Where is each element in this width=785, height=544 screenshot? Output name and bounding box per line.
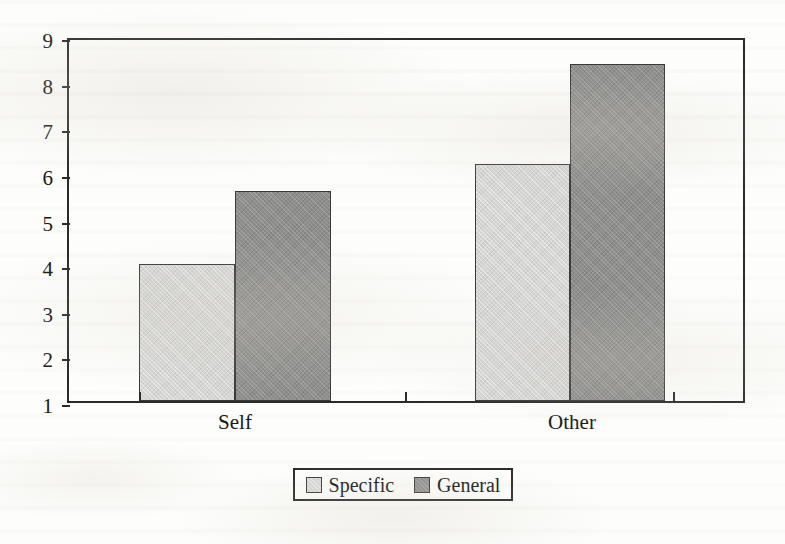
y-axis-label-4: 4 [43, 259, 54, 280]
y-axis-tick-1: 1 [62, 405, 70, 407]
y-axis-tick-8: 8 [62, 86, 70, 88]
y-axis-label-5: 5 [43, 214, 54, 235]
y-axis-tick-3: 3 [62, 314, 70, 316]
legend-swatch-general-icon [414, 477, 430, 493]
legend-label-general: General [437, 475, 500, 495]
y-axis-tick-9: 9 [62, 40, 70, 42]
legend: Specific General [293, 468, 513, 501]
plot-area: 9 8 7 6 5 4 3 2 1 [67, 38, 745, 403]
y-axis-tick-6: 6 [62, 177, 70, 179]
y-axis-label-7: 7 [43, 122, 54, 143]
y-axis-tick-7: 7 [62, 131, 70, 133]
y-axis-label-8: 8 [43, 77, 54, 98]
y-axis-label-2: 2 [43, 350, 54, 371]
x-axis-category-label-other: Other [548, 412, 596, 433]
legend-label-specific: Specific [329, 475, 395, 495]
bar-other-specific [475, 164, 570, 401]
y-axis-tick-5: 5 [62, 223, 70, 225]
legend-swatch-specific-icon [306, 477, 322, 493]
y-axis-tick-4: 4 [62, 268, 70, 270]
y-axis-tick-2: 2 [62, 359, 70, 361]
x-axis-category-label-self: Self [218, 412, 252, 433]
y-axis-label-3: 3 [43, 305, 54, 326]
y-axis-label-6: 6 [43, 168, 54, 189]
y-axis-label-9: 9 [43, 31, 54, 52]
bar-self-specific [139, 264, 235, 401]
x-axis-tick-group-divider [405, 392, 407, 403]
chart-figure: 9 8 7 6 5 4 3 2 1 [0, 0, 785, 544]
x-axis-tick-left [139, 392, 141, 403]
legend-entry-specific: Specific [306, 475, 395, 495]
bar-self-general [235, 191, 331, 401]
legend-entry-general: General [414, 475, 500, 495]
x-axis-tick-right [673, 392, 675, 403]
bar-other-general [570, 64, 665, 401]
y-axis-label-1: 1 [43, 396, 54, 417]
